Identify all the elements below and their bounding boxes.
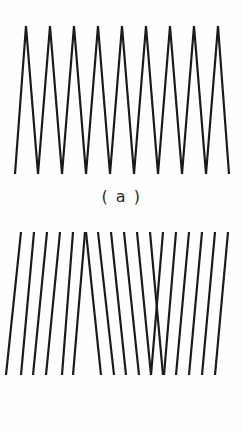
line-segment <box>21 232 34 375</box>
line-segment <box>137 232 151 375</box>
line-segment <box>62 232 73 375</box>
figure-root: ( a ) ( b ) <box>0 0 243 433</box>
line-segment <box>124 232 139 375</box>
panel-a-caption: ( a ) <box>0 187 243 206</box>
line-segment <box>202 232 215 375</box>
zigzag-polyline <box>15 26 229 174</box>
line-segment <box>176 232 189 375</box>
panel-b: ( b ) <box>0 215 243 433</box>
line-segment <box>6 232 21 375</box>
line-segment <box>164 232 176 375</box>
zigzag-waveform-icon <box>0 0 243 182</box>
line-segment <box>111 232 126 375</box>
sheared-lines-plot <box>0 215 243 378</box>
line-segment <box>33 232 47 375</box>
line-segment-group <box>6 232 228 375</box>
line-segment <box>86 232 101 375</box>
sheared-zigzag-lines-icon <box>0 215 243 378</box>
zigzag-waveform-plot <box>0 0 243 182</box>
line-segment <box>73 232 85 375</box>
line-segment <box>98 232 114 375</box>
line-segment <box>215 232 228 375</box>
line-segment <box>46 232 60 375</box>
panel-a: ( a ) <box>0 0 243 215</box>
line-segment <box>189 232 202 375</box>
